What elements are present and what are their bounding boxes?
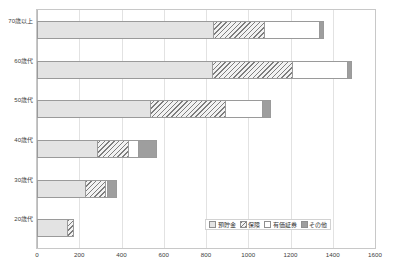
bar-row [37, 100, 271, 118]
bar-segment-other [138, 140, 157, 158]
bar-segment-insurance [67, 219, 74, 237]
legend-label: 保険 [248, 222, 260, 228]
legend-item[interactable]: 預貯金 [209, 221, 236, 228]
y-axis-labels: 70歳以上60歳代50歳代40歳代30歳代20歳代 [0, 0, 36, 240]
bar-segment-deposit [37, 100, 151, 118]
x-tick-label: 0 [35, 252, 38, 258]
legend-label: その他 [309, 222, 327, 228]
y-tick-label: 40歳代 [14, 137, 33, 143]
x-tick-label: 600 [159, 252, 169, 258]
bar-segment-insurance [97, 140, 129, 158]
plot-area [36, 9, 376, 249]
bar-segment-deposit [37, 140, 98, 158]
bar-segment-insurance [212, 61, 292, 79]
legend-item[interactable]: 有価証券 [264, 221, 297, 228]
bar-segment-deposit [37, 21, 214, 39]
bar-segment-insurance [85, 180, 106, 198]
bar-segment-securities [264, 21, 320, 39]
gridline-0 [37, 10, 38, 248]
x-tick-label: 1200 [284, 252, 298, 258]
x-tick-label: 400 [116, 252, 126, 258]
bar-segment-deposit [37, 180, 86, 198]
chart-legend: 預貯金保険有価証券その他 [205, 219, 331, 230]
y-tick-label: 20歳代 [14, 216, 33, 222]
y-tick-label: 30歳代 [14, 177, 33, 183]
gridline-400 [122, 10, 123, 248]
gridline-1200 [291, 10, 292, 248]
bar-row [37, 180, 117, 198]
gridline-600 [164, 10, 165, 248]
gridline-200 [79, 10, 80, 248]
gridline-800 [206, 10, 207, 248]
bar-segment-other [319, 21, 324, 39]
bar-segment-deposit [37, 219, 68, 237]
legend-swatch-deposit [209, 221, 216, 228]
bar-segment-other [107, 180, 118, 198]
bar-chart: 70歳以上60歳代50歳代40歳代30歳代20歳代 02004006008001… [0, 0, 394, 266]
bar-segment-securities [225, 100, 263, 118]
legend-swatch-insurance [240, 221, 247, 228]
bar-row [37, 140, 157, 158]
y-tick-label: 70歳以上 [8, 18, 33, 24]
clipped-header-strip [0, 0, 394, 4]
x-tick-label: 1400 [326, 252, 340, 258]
bar-segment-other [262, 100, 270, 118]
legend-swatch-other [301, 221, 308, 228]
bar-row [37, 219, 74, 237]
legend-item[interactable]: その他 [301, 221, 328, 228]
x-tick-label: 800 [201, 252, 211, 258]
bar-segment-insurance [213, 21, 265, 39]
gridline-1400 [333, 10, 334, 248]
bar-row [37, 21, 324, 39]
bar-segment-other [347, 61, 352, 79]
y-tick-label: 50歳代 [14, 97, 33, 103]
x-tick-label: 200 [74, 252, 84, 258]
y-tick-label: 60歳代 [14, 58, 33, 64]
gridline-1000 [248, 10, 249, 248]
legend-item[interactable]: 保険 [240, 221, 261, 228]
x-axis-labels: 02004006008001000120014001600 [36, 250, 376, 264]
legend-swatch-securities [264, 221, 271, 228]
legend-label: 有価証券 [273, 222, 297, 228]
x-tick-label: 1000 [241, 252, 255, 258]
bar-segment-securities [292, 61, 348, 79]
legend-label: 預貯金 [218, 222, 236, 228]
x-tick-label: 1600 [368, 252, 382, 258]
bar-segment-insurance [150, 100, 226, 118]
bar-row [37, 61, 352, 79]
bar-segment-deposit [37, 61, 213, 79]
